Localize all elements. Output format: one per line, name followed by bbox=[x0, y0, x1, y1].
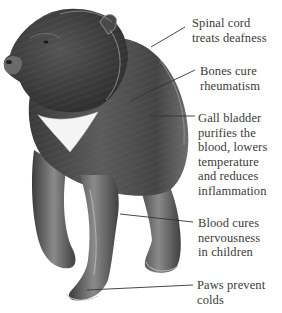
bear-head bbox=[4, 9, 128, 113]
bear-right-leg bbox=[66, 175, 119, 301]
label-spinal-cord: Spinal cord treats deafness bbox=[192, 16, 267, 45]
leader-spinal-cord bbox=[151, 27, 185, 47]
label-gall-bladder: Gall bladder purifies the blood, lowers … bbox=[198, 111, 267, 198]
bear-anatomy-diagram: Spinal cord treats deafness Bones cure r… bbox=[0, 0, 282, 313]
label-blood: Blood cures nervousness in children bbox=[198, 216, 260, 260]
label-paws: Paws prevent colds bbox=[197, 278, 265, 307]
label-bones: Bones cure rheumatism bbox=[200, 64, 260, 93]
